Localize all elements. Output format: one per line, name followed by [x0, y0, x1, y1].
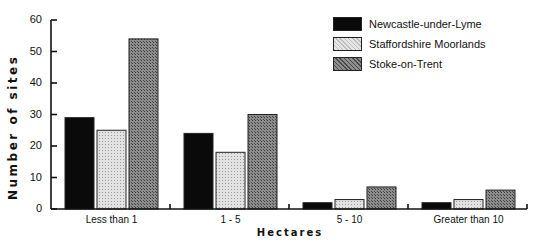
- legend: Newcastle-under-LymeStaffordshire Moorla…: [333, 14, 486, 74]
- bar-staffordshire-moorlands: [216, 152, 245, 209]
- bar-stoke-on-trent: [248, 115, 277, 210]
- x-axis-label: Hectares: [0, 227, 540, 238]
- bar-stoke-on-trent: [486, 190, 515, 209]
- x-tick-label: Greater than 10: [409, 214, 529, 225]
- x-tick-label: 5 - 10: [290, 214, 410, 225]
- y-tick-label: 60: [22, 13, 42, 25]
- bar-newcastle-under-lyme: [422, 203, 451, 209]
- x-tick-label: Less than 1: [52, 214, 172, 225]
- y-axis-label: Number of sites: [6, 55, 20, 200]
- bar-staffordshire-moorlands: [97, 130, 126, 209]
- y-tick-label: 30: [22, 108, 42, 120]
- y-tick-label: 10: [22, 171, 42, 183]
- bar-staffordshire-moorlands: [454, 200, 483, 209]
- y-tick-label: 20: [22, 139, 42, 151]
- legend-item: Stoke-on-Trent: [333, 54, 486, 74]
- bar-staffordshire-moorlands: [335, 200, 364, 209]
- y-tick-label: 50: [22, 45, 42, 57]
- y-tick-label: 0: [22, 202, 42, 214]
- bar-newcastle-under-lyme: [303, 203, 332, 209]
- legend-swatch: [333, 37, 362, 51]
- legend-label: Newcastle-under-Lyme: [369, 18, 482, 30]
- chart-area: Number of sites Hectares 0102030405060 L…: [0, 0, 540, 245]
- x-tick-label: 1 - 5: [171, 214, 291, 225]
- legend-item: Newcastle-under-Lyme: [333, 14, 486, 34]
- legend-label: Stoke-on-Trent: [369, 58, 442, 70]
- bar-stoke-on-trent: [129, 39, 158, 209]
- legend-label: Staffordshire Moorlands: [369, 38, 486, 50]
- legend-swatch: [333, 17, 362, 31]
- bar-stoke-on-trent: [367, 187, 396, 209]
- legend-item: Staffordshire Moorlands: [333, 34, 486, 54]
- y-tick-label: 40: [22, 76, 42, 88]
- legend-swatch: [333, 57, 362, 71]
- bar-newcastle-under-lyme: [184, 133, 213, 209]
- bar-newcastle-under-lyme: [65, 118, 94, 209]
